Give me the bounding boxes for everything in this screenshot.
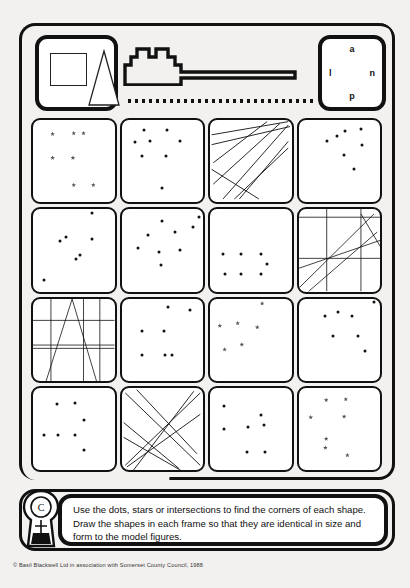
dot-mark	[90, 212, 93, 215]
star-mark	[50, 131, 55, 136]
grid-cell-r2c4[interactable]	[297, 207, 383, 293]
grid-cell-r4c3[interactable]	[208, 386, 294, 472]
svg-text:C: C	[38, 502, 45, 513]
dot-mark	[364, 350, 367, 353]
dot-mark	[259, 252, 262, 255]
cell-lines	[299, 209, 381, 291]
dot-mark	[73, 401, 76, 404]
dot-mark	[140, 330, 143, 333]
dot-mark	[159, 264, 162, 267]
grid-cell-r4c1[interactable]	[31, 386, 117, 472]
dot-mark	[239, 273, 242, 276]
dot-mark	[263, 450, 266, 453]
dot-mark	[166, 128, 169, 131]
cell-lines	[122, 388, 204, 470]
dot-mark	[324, 314, 327, 317]
dot-mark	[222, 253, 225, 256]
dot-mark	[361, 143, 364, 146]
star-mark	[71, 131, 76, 136]
dot-mark	[166, 305, 169, 308]
star-mark	[342, 414, 347, 419]
dot-mark	[174, 231, 177, 234]
dot-mark	[356, 335, 359, 338]
cell-lines	[210, 120, 292, 202]
grid-cell-r1c2[interactable]	[120, 118, 206, 204]
model-figures-panel	[35, 35, 118, 111]
grid-cell-r2c2[interactable]	[120, 207, 206, 293]
dot-mark	[326, 140, 329, 143]
grid-cell-r1c1[interactable]	[31, 118, 117, 204]
dot-mark	[90, 237, 93, 240]
header: a l n p	[30, 33, 385, 113]
star-mark	[235, 321, 240, 326]
dot-mark	[260, 413, 263, 416]
grid-cell-r2c1[interactable]	[31, 207, 117, 293]
letters-panel: a l n p	[318, 35, 386, 111]
dot-mark	[147, 233, 150, 236]
dot-mark	[336, 311, 339, 314]
dot-mark	[64, 236, 67, 239]
exercise-grid	[31, 118, 382, 472]
dot-mark	[260, 273, 263, 276]
star-mark	[260, 301, 265, 306]
grid-cell-r3c1[interactable]	[31, 297, 117, 383]
dot-mark	[134, 141, 137, 144]
dot-mark	[343, 154, 346, 157]
grid-cell-r1c3[interactable]	[208, 118, 294, 204]
dot-mark	[75, 258, 78, 261]
dot-mark	[79, 254, 82, 257]
dot-mark	[266, 263, 269, 266]
dot-mark	[83, 418, 86, 421]
dot-mark	[197, 216, 200, 219]
dot-mark	[247, 426, 250, 429]
dot-mark	[58, 240, 61, 243]
dot-mark	[239, 252, 242, 255]
star-mark	[324, 436, 329, 441]
dot-mark	[140, 155, 143, 158]
cell-lines	[33, 299, 115, 381]
dot-mark	[222, 404, 225, 407]
grid-cell-r3c2[interactable]	[120, 297, 206, 383]
grid-cell-r1c4[interactable]	[297, 118, 383, 204]
dot-mark	[149, 140, 152, 143]
dot-mark	[136, 246, 139, 249]
dot-mark	[335, 134, 338, 137]
star-mark	[343, 397, 348, 402]
dot-mark	[373, 300, 376, 303]
star-mark	[255, 325, 260, 330]
dot-mark	[55, 403, 58, 406]
star-mark	[50, 155, 55, 160]
instructions-box: Use the dots, stars or intersections to …	[58, 494, 388, 546]
dot-mark	[351, 314, 354, 317]
dotted-divider	[128, 99, 316, 103]
dot-mark	[179, 249, 182, 252]
dot-mark	[224, 273, 227, 276]
star-mark	[324, 398, 329, 403]
square-icon	[50, 53, 87, 86]
star-mark	[70, 155, 75, 160]
grid-cell-r4c4[interactable]	[297, 386, 383, 472]
star-mark	[323, 445, 328, 450]
dot-mark	[161, 219, 164, 222]
dot-mark	[161, 187, 164, 190]
dot-mark	[360, 128, 363, 131]
dot-mark	[162, 330, 165, 333]
star-mark	[308, 415, 313, 420]
dot-mark	[163, 354, 166, 357]
dot-mark	[142, 128, 145, 131]
grid-cell-r3c4[interactable]	[297, 297, 383, 383]
grid-cell-r2c3[interactable]	[208, 207, 294, 293]
star-mark	[71, 182, 76, 187]
star-mark	[345, 453, 350, 458]
dot-mark	[157, 251, 160, 254]
keyhole-logo: C	[20, 489, 62, 551]
triangle-icon	[87, 49, 121, 107]
dot-mark	[262, 423, 265, 426]
dot-mark	[179, 140, 182, 143]
grid-cell-r4c2[interactable]	[120, 386, 206, 472]
dot-mark	[222, 427, 225, 430]
dot-mark	[43, 278, 46, 281]
star-mark	[222, 347, 227, 352]
grid-cell-r3c3[interactable]	[208, 297, 294, 383]
copyright-line: © Basil Blackwell Ltd in association wit…	[13, 562, 203, 568]
